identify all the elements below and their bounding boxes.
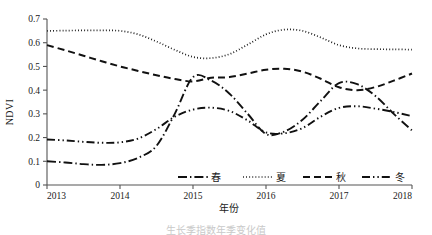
x-tick-label: 2014 — [111, 191, 130, 201]
y-tick-label: 0 — [35, 180, 40, 190]
y-tick-label: 0.3 — [28, 109, 40, 119]
x-tick-label: 2018 — [393, 191, 412, 201]
legend-item-夏[interactable]: 夏 — [243, 172, 286, 183]
x-axis-title: 年份 — [219, 202, 239, 214]
x-tick-label: 2017 — [330, 191, 349, 201]
legend-label-秋: 秋 — [336, 171, 346, 183]
x-tick-label: 2016 — [257, 191, 276, 201]
x-tick-label: 2013 — [47, 191, 66, 201]
legend-label-冬: 冬 — [395, 171, 405, 183]
legend-label-夏: 夏 — [276, 172, 286, 183]
figure-container: 00.10.20.30.40.50.60.7 20132014201520162… — [0, 0, 432, 235]
y-axis-tick-labels: 00.10.20.30.40.50.60.7 — [28, 14, 40, 190]
legend-item-冬[interactable]: 冬 — [362, 171, 405, 183]
y-tick-label: 0.4 — [28, 86, 40, 96]
x-axis-tick-labels: 201320142015201620172018 — [47, 191, 412, 201]
x-axis-ticks — [47, 185, 412, 189]
figure-caption: 生长季指数年季变化值 — [0, 224, 432, 235]
legend-item-秋[interactable]: 秋 — [303, 171, 346, 183]
data-series-group — [47, 29, 412, 164]
chart-legend: 春夏秋冬 — [178, 171, 405, 183]
series-line-春 — [47, 75, 412, 165]
y-tick-label: 0.7 — [28, 14, 40, 24]
legend-label-春: 春 — [211, 172, 221, 183]
x-tick-label: 2015 — [184, 191, 203, 201]
figure-caption-strip: 生长季指数年季变化值 — [0, 224, 432, 235]
y-tick-label: 0.2 — [28, 133, 40, 143]
series-line-冬 — [47, 106, 412, 143]
y-tick-label: 0.1 — [28, 157, 40, 167]
y-axis-title: NDVI — [4, 99, 15, 126]
y-axis-ticks — [43, 19, 47, 185]
y-tick-label: 0.5 — [28, 62, 40, 72]
series-line-夏 — [47, 29, 412, 58]
ndvi-seasonal-line-chart: 00.10.20.30.40.50.60.7 20132014201520162… — [0, 0, 432, 235]
legend-item-春[interactable]: 春 — [178, 172, 221, 183]
y-tick-label: 0.6 — [28, 38, 40, 48]
chart-axes — [43, 19, 412, 189]
